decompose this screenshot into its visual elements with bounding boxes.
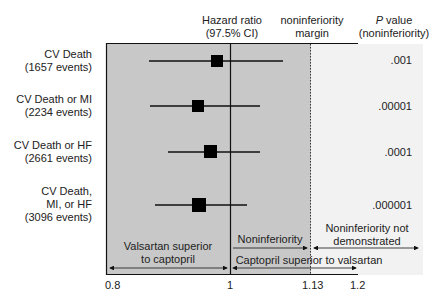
region-line: demonstrated <box>314 235 420 248</box>
header-line: noninferiority <box>272 14 352 27</box>
noninferiority-label: Noninferiority <box>232 233 308 246</box>
row-events: (2661 events) <box>0 152 92 165</box>
not-demonstrated-label: Noninferiority not demonstrated <box>314 222 420 248</box>
header-line: margin <box>272 27 352 40</box>
row-name: CV Death or MI <box>0 93 92 106</box>
region-line: Valsartan superior <box>110 240 226 253</box>
p-value-3: .0001 <box>350 146 412 158</box>
p-value-1: .001 <box>350 54 412 66</box>
row-name: CV Death <box>0 48 92 61</box>
header-line: Hazard ratio <box>192 14 272 27</box>
p-rest: value <box>383 14 412 26</box>
region-line: Noninferiority not <box>314 222 420 235</box>
x-tick-1.2: 1.2 <box>350 279 365 291</box>
header-line: (97.5% CI) <box>192 27 272 40</box>
row-events: (2234 events) <box>0 106 92 119</box>
row-label-1: CV Death (1657 events) <box>0 48 92 74</box>
p-value-header: P value (noninferiority) <box>354 14 434 40</box>
row-name-2: MI, or HF <box>0 198 92 211</box>
row-label-3: CV Death or HF (2661 events) <box>0 139 92 165</box>
row-events: (3096 events) <box>0 211 92 224</box>
p-value-2: .00001 <box>350 100 412 112</box>
row-name: CV Death, <box>0 185 92 198</box>
p-italic: P <box>376 14 383 26</box>
row-events: (1657 events) <box>0 61 92 74</box>
row-label-2: CV Death or MI (2234 events) <box>0 93 92 119</box>
margin-header: noninferiority margin <box>272 14 352 40</box>
header-line: P value <box>354 14 434 27</box>
x-tick-1: 1 <box>227 279 233 291</box>
valsartan-superior-label: Valsartan superior to captopril <box>110 240 226 266</box>
x-tick-0.8: 0.8 <box>105 279 120 291</box>
row-name: CV Death or HF <box>0 139 92 152</box>
row-label-4: CV Death, MI, or HF (3096 events) <box>0 185 92 224</box>
region-line: to captopril <box>110 253 226 266</box>
hazard-ratio-header: Hazard ratio (97.5% CI) <box>192 14 272 40</box>
captopril-superior-label: Captopril superior to valsartan <box>234 254 384 267</box>
header-line: (noninferiority) <box>354 27 434 40</box>
x-tick-1.13: 1.13 <box>302 279 323 291</box>
p-value-4: .000001 <box>350 199 412 211</box>
